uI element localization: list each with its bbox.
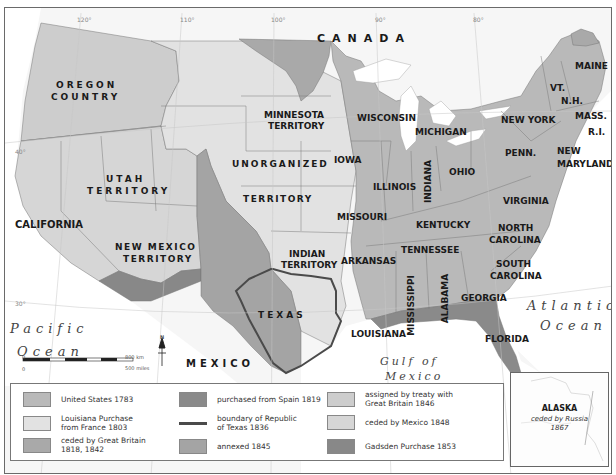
label-maine: MAINE — [575, 61, 608, 72]
label-oregon-country-2: COUNTRY — [51, 92, 120, 103]
label-vt: VT. — [550, 83, 565, 94]
scale-km-label: 800 km — [125, 354, 144, 360]
label-south-carolina-1: SOUTH — [496, 259, 531, 270]
map-legend: United States 1783 Louisiana Purchasefro… — [10, 383, 504, 461]
scale-zero-mi: 0 — [22, 366, 25, 372]
legend-label: Gadsden Purchase 1853 — [365, 442, 456, 451]
meridian-label-100: 100° — [271, 16, 285, 23]
label-pacific: Pacific — [10, 321, 89, 336]
label-ohio: OHIO — [449, 167, 475, 178]
parallel-label-40: 40° — [15, 148, 26, 155]
label-georgia: GEORGIA — [461, 293, 507, 304]
legend-item-mexico-1848: ceded by Mexico 1848 — [327, 415, 450, 430]
label-new-jersey-1: NEW — [557, 146, 581, 157]
label-kentucky: KENTUCKY — [416, 220, 470, 231]
legend-item-texas-boundary: boundary of Republicof Texas 1836 — [179, 414, 297, 432]
label-indiana: INDIANA — [423, 160, 434, 203]
legend-line-swatch — [179, 422, 207, 425]
legend-swatch — [23, 392, 51, 407]
label-mexico: MEXICO — [186, 358, 254, 369]
alaska-caption-2: 1867 — [511, 424, 608, 432]
legend-swatch — [23, 438, 51, 453]
alaska-inset: ALASKA ceded by Russia 1867 — [510, 372, 609, 467]
label-utah-1: UTAH — [106, 174, 145, 185]
meridian-label-120: 120° — [77, 16, 91, 23]
label-nh: N.H. — [561, 96, 583, 107]
alaska-caption-1: ceded by Russia — [511, 415, 608, 423]
legend-label: purchased from Spain 1819 — [217, 395, 321, 404]
legend-label-2: of Texas 1836 — [217, 423, 297, 432]
legend-label: United States 1783 — [61, 395, 133, 404]
label-pacific-ocean: Ocean — [17, 344, 84, 359]
legend-label-2: from France 1803 — [61, 423, 133, 432]
label-arkansas: ARKANSAS — [341, 256, 396, 267]
label-mass: MASS. — [575, 111, 607, 122]
label-oregon-country-1: OREGON — [56, 80, 117, 91]
label-atlantic: Atlantic — [527, 298, 612, 313]
label-tennessee: TENNESSEE — [401, 245, 459, 256]
meridian-label-80: 80° — [473, 16, 484, 23]
legend-label-2: 1818, 1842 — [61, 445, 146, 454]
legend-label: ceded by Mexico 1848 — [365, 418, 450, 427]
legend-swatch — [23, 416, 51, 431]
legend-swatch — [179, 392, 207, 407]
meridian-label-110: 110° — [180, 16, 194, 23]
scale-mi-label: 500 miles — [125, 365, 149, 371]
label-new-york: NEW YORK — [501, 115, 556, 126]
legend-label: assigned by treaty with — [365, 390, 453, 399]
label-gulf-mexico: Mexico — [385, 370, 443, 383]
legend-label: ceded by Great Britain — [61, 436, 146, 445]
label-south-carolina-2: CAROLINA — [490, 271, 542, 282]
legend-swatch — [327, 392, 355, 407]
parallel-label-30: 30° — [15, 300, 26, 307]
label-maryland: MARYLAND — [557, 159, 612, 170]
label-utah-2: TERRITORY — [87, 186, 170, 197]
label-virginia: VIRGINIA — [503, 196, 549, 207]
legend-label: Louisiana Purchase — [61, 414, 133, 423]
label-louisiana: LOUISIANA — [351, 329, 406, 340]
label-indian-territory-1: INDIAN — [289, 249, 325, 260]
legend-item-louisiana-1803: Louisiana Purchasefrom France 1803 — [23, 414, 133, 432]
legend-item-annexed-1845: annexed 1845 — [179, 439, 271, 454]
legend-swatch — [327, 439, 355, 454]
label-illinois: ILLINOIS — [373, 182, 416, 193]
scale-zero-km: 0 — [22, 354, 25, 360]
label-north-carolina-2: CAROLINA — [489, 235, 541, 246]
label-alabama: ALABAMA — [440, 274, 451, 323]
legend-label: annexed 1845 — [217, 442, 271, 451]
label-unorganized-territory: TERRITORY — [243, 194, 313, 205]
label-minnesota-1: MINNESOTA — [264, 110, 324, 121]
label-michigan: MICHIGAN — [415, 127, 467, 138]
legend-item-spain-1819: purchased from Spain 1819 — [179, 392, 321, 407]
legend-label-2: Great Britain 1846 — [365, 399, 453, 408]
label-new-mexico-1: NEW MEXICO — [115, 242, 196, 253]
legend-item-treaty-gb-1846: assigned by treaty withGreat Britain 184… — [327, 390, 453, 408]
label-new-mexico-2: TERRITORY — [123, 254, 193, 265]
label-minnesota-2: TERRITORY — [268, 121, 324, 132]
legend-swatch — [179, 439, 207, 454]
north-arrow-label: N — [160, 334, 164, 340]
meridian-label-90: 90° — [375, 16, 386, 23]
label-wisconsin: WISCONSIN — [357, 113, 416, 124]
label-indian-territory-2: TERRITORY — [281, 260, 337, 271]
label-california: CALIFORNIA — [15, 219, 83, 230]
label-iowa: IOWA — [334, 155, 362, 166]
label-penn: PENN. — [505, 148, 536, 159]
alaska-title: ALASKA — [511, 403, 608, 414]
legend-item-ceded-gb: ceded by Great Britain1818, 1842 — [23, 436, 146, 454]
label-mississippi: MISSISSIPPI — [406, 275, 417, 336]
legend-item-us-1783: United States 1783 — [23, 392, 133, 407]
label-texas: TEXAS — [258, 310, 306, 321]
legend-swatch — [327, 415, 355, 430]
label-unorganized: UNORGANIZED — [232, 159, 329, 170]
legend-item-gadsden-1853: Gadsden Purchase 1853 — [327, 439, 456, 454]
label-atlantic-ocean: Ocean — [540, 318, 607, 333]
label-north-carolina-1: NORTH — [498, 223, 533, 234]
label-florida: FLORIDA — [485, 334, 529, 345]
label-canada: CANADA — [317, 33, 411, 44]
label-missouri: MISSOURI — [337, 212, 387, 223]
label-ri: R.I. — [588, 127, 605, 138]
legend-label: boundary of Republic — [217, 414, 297, 423]
label-gulf: Gulf of — [380, 355, 439, 368]
